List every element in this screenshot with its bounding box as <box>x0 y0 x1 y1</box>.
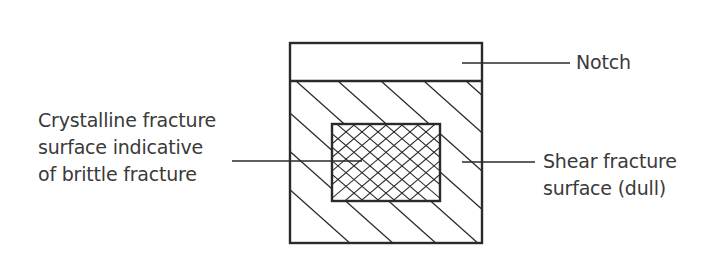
notch-label-text: Notch <box>576 49 631 76</box>
crystalline-label-line-1: Crystalline fracture <box>38 107 216 134</box>
shear-label: Shear fracture surface (dull) <box>543 148 677 202</box>
shear-label-line-2: surface (dull) <box>543 175 677 202</box>
crystalline-label-line-3: of brittle fracture <box>38 161 216 188</box>
crystalline-label: Crystalline fracture surface indicative … <box>38 107 216 188</box>
crystalline-label-line-2: surface indicative <box>38 134 216 161</box>
notch-label: Notch <box>576 49 631 76</box>
crystalline-region-fill <box>332 124 440 201</box>
shear-label-line-1: Shear fracture <box>543 148 677 175</box>
